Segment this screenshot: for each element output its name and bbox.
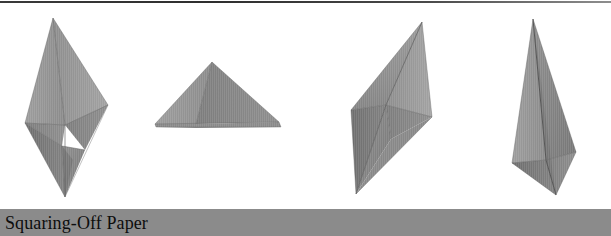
figure-narrow-dart: [512, 19, 576, 195]
caption-bar: Squaring-Off Paper: [0, 209, 611, 236]
origami-figures-svg: [0, 0, 611, 209]
figure-page: Squaring-Off Paper: [0, 0, 611, 236]
figure-triangle: [155, 62, 281, 128]
figure-vertical-diamond: [25, 18, 108, 197]
caption-label: Squaring-Off Paper: [0, 214, 148, 232]
figures-area: [0, 0, 611, 209]
figure-tilted-rhombus: [351, 22, 432, 194]
